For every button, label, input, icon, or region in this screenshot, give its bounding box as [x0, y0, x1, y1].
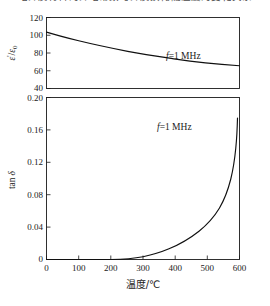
lower-panel: 0 0.04 0.08 0.12 0.16 0.20 tanδ [7, 93, 247, 290]
lower-yticklabel-0: 0 [39, 254, 44, 264]
lower-ylabel-tan: tan [7, 177, 17, 189]
lower-xticklabel-2: 200 [104, 263, 118, 273]
lower-y-ticks [47, 98, 51, 260]
upper-yticklabel-2: 80 [34, 48, 44, 58]
upper-y-ticklabels: 40 60 80 100 120 [30, 13, 44, 94]
upper-plot-frame [47, 18, 240, 89]
upper-yticklabel-3: 100 [30, 30, 44, 40]
figure-container: 电介质材料的介电常数与介质损耗随温度的变化关系 40 60 80 100 120 [0, 0, 270, 306]
lower-annotation-frequency: f=1 MHz [157, 122, 192, 132]
lower-plot-frame [47, 98, 240, 260]
upper-y-ticks [47, 18, 51, 89]
lower-xticklabel-5: 500 [201, 263, 215, 273]
upper-yticklabel-4: 120 [30, 13, 44, 23]
lower-annot-rest: =1 MHz [160, 122, 192, 132]
lower-x-ticks [47, 256, 240, 260]
lower-yticklabel-2: 0.08 [27, 190, 43, 200]
upper-ylabel-sub: 0 [11, 45, 19, 49]
lower-yticklabel-3: 0.12 [27, 157, 43, 167]
lower-x-axis-title: 温度/℃ [126, 278, 161, 290]
upper-curve-dielectric-constant [47, 32, 240, 66]
upper-annotation-frequency: f=1 MHz [166, 51, 201, 61]
lower-y-axis-title: tanδ [7, 170, 17, 189]
lower-xticklabel-0: 0 [44, 263, 49, 273]
lower-xticklabel-6: 600 [233, 263, 247, 273]
upper-yticklabel-1: 60 [34, 66, 44, 76]
lower-xticklabel-3: 300 [136, 263, 150, 273]
lower-yticklabel-1: 0.04 [27, 222, 43, 232]
svg-text:tanδ: tanδ [7, 170, 17, 189]
lower-x-ticklabels: 0 100 200 300 400 500 600 [44, 263, 247, 273]
lower-y-ticklabels: 0 0.04 0.08 0.12 0.16 0.20 [27, 93, 43, 265]
clipped-caption-text: 电介质材料的介电常数与介质损耗随温度的变化关系 [0, 0, 270, 4]
lower-yticklabel-4: 0.16 [27, 125, 43, 135]
lower-curve-loss-tangent [47, 118, 238, 260]
svg-text:ε'/ε0: ε'/ε0 [6, 45, 20, 61]
upper-panel: 40 60 80 100 120 ε'/ε0 f=1 MHz [6, 13, 240, 94]
lower-xticklabel-4: 400 [168, 263, 182, 273]
dielectric-temperature-figure: 40 60 80 100 120 ε'/ε0 f=1 MHz [0, 0, 270, 306]
upper-yticklabel-0: 40 [34, 83, 44, 93]
lower-yticklabel-5: 0.20 [27, 93, 43, 103]
upper-annot-rest: =1 MHz [169, 51, 201, 61]
lower-xticklabel-1: 100 [72, 263, 86, 273]
lower-ylabel-delta: δ [7, 170, 17, 175]
upper-y-axis-title: ε'/ε0 [6, 45, 20, 61]
